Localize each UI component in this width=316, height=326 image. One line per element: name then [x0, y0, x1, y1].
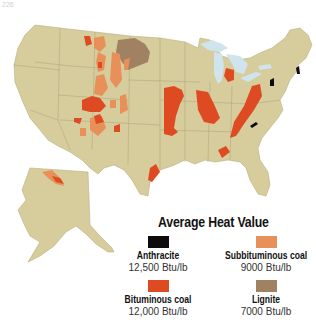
legend-item-value: 7000 Btu/lb [216, 306, 316, 318]
legend-item-value: 12,500 Btu/lb [108, 262, 208, 274]
legend-item-subbituminous: Subbituminous coal 9000 Btu/lb [216, 236, 316, 274]
subbituminous-swatch [256, 236, 277, 248]
alaska-land [18, 168, 114, 262]
legend-item-name: Subbituminous coal [223, 250, 309, 262]
legend: Average Heat Value Anthracite 12,500 Btu… [120, 214, 316, 326]
legend-item-value: 12,000 Btu/lb [108, 306, 208, 318]
legend-item-name: Anthracite [115, 250, 201, 262]
anthracite-swatch [148, 236, 169, 248]
legend-item-value: 9000 Btu/lb [216, 262, 316, 274]
legend-item-name: Lignite [223, 294, 309, 306]
legend-item-lignite: Lignite 7000 Btu/lb [216, 280, 316, 318]
lignite-swatch [256, 280, 277, 292]
legend-item-anthracite: Anthracite 12,500 Btu/lb [108, 236, 208, 274]
legend-item-bituminous: Bituminous coal 12,000 Btu/lb [108, 280, 208, 318]
bituminous-swatch [148, 280, 169, 292]
legend-title: Average Heat Value [158, 214, 269, 230]
legend-item-name: Bituminous coal [115, 294, 201, 306]
